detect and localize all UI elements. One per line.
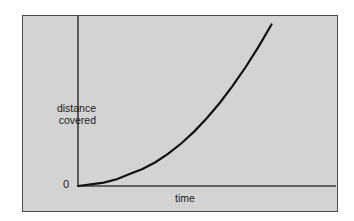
y-axis-label-line-1: distance — [30, 103, 96, 115]
y-axis-label-line-2: covered — [30, 115, 96, 127]
origin-label: 0 — [63, 179, 69, 191]
distance-curve — [78, 25, 272, 187]
x-axis-label: time — [175, 193, 195, 205]
y-axis-label: distance covered — [30, 103, 96, 126]
clipped-text-strip: i ii i i i ii i i — [0, 0, 354, 7]
plot-area: distance covered time 0 — [23, 16, 337, 211]
figure-panel: distance covered time 0 — [22, 15, 338, 212]
